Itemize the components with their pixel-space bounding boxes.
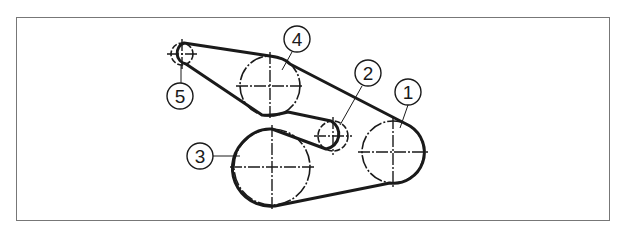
- label-1-text: 1: [403, 82, 414, 103]
- label-4-text: 4: [292, 29, 303, 50]
- label-2-text: 2: [363, 63, 374, 84]
- label-3-text: 3: [195, 146, 206, 167]
- label-5: 5: [167, 65, 193, 109]
- label-4: 4: [282, 26, 310, 70]
- pulley-1: [358, 117, 428, 187]
- belt-path: [177, 43, 424, 206]
- pulley-3: [230, 125, 314, 209]
- pulley-2: [314, 117, 352, 155]
- pulleys: [167, 39, 428, 209]
- belt-diagram: 12345: [0, 0, 621, 234]
- label-5-text: 5: [175, 86, 186, 107]
- pulley-4: [236, 52, 304, 120]
